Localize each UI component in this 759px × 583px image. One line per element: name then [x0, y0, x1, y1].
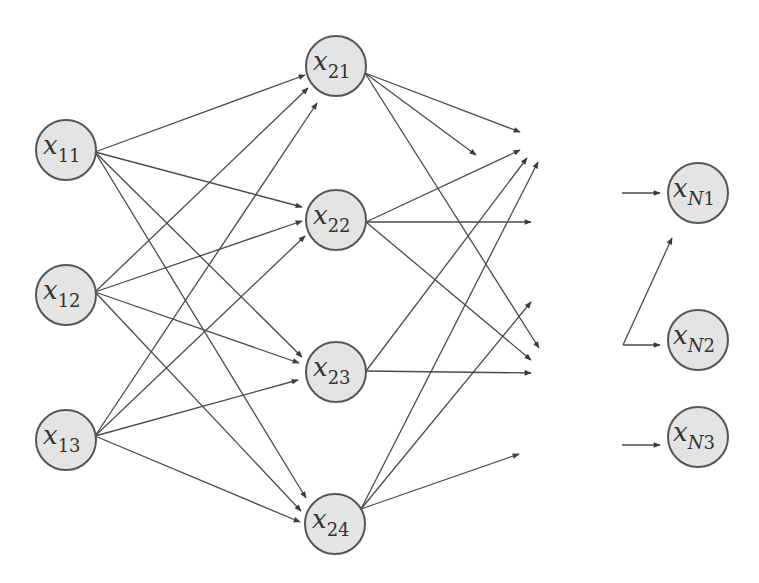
- edge-arrow-x11: [95, 152, 302, 207]
- edge-arrow-x13: [95, 236, 305, 436]
- edge-arrow-x24: [361, 302, 531, 509]
- edges-layer: [95, 73, 672, 522]
- edge-arrow-x13: [95, 436, 300, 522]
- edge-arrow-x21: [365, 73, 476, 155]
- node-xN2: xN2: [668, 310, 728, 370]
- edge-arrow-x11: [95, 152, 302, 357]
- nodes-layer: x11x12x13x21x22x23x24xN1xN2xN3: [36, 36, 728, 554]
- edge-arrow-x12: [95, 292, 299, 363]
- edge-arrow-x23: [366, 371, 531, 373]
- node-x12: x12: [36, 265, 96, 325]
- node-x23: x23: [306, 342, 366, 402]
- node-xN3: xN3: [668, 407, 728, 467]
- node-x21: x21: [306, 36, 366, 96]
- node-x22: x22: [306, 190, 366, 250]
- edge-arrow-x12: [95, 88, 308, 292]
- edge-arrow-x23: [366, 158, 527, 371]
- edge-arrow-x21: [365, 73, 520, 132]
- edge-arrow-x22: [366, 150, 520, 222]
- node-xN1: xN1: [668, 163, 728, 223]
- node-x13: x13: [36, 410, 96, 470]
- edge-arrow-x11: [95, 75, 305, 152]
- node-x11: x11: [36, 120, 96, 180]
- edge-arrow-x13: [95, 103, 317, 436]
- neural-network-diagram: x11x12x13x21x22x23x24xN1xN2xN3: [0, 0, 759, 583]
- node-x24: x24: [305, 494, 365, 554]
- edge-arrow-x13: [95, 380, 298, 436]
- edge-arrow-in-N2: [623, 238, 672, 345]
